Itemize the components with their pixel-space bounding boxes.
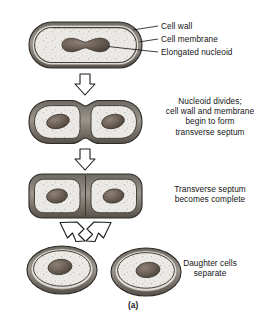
stage-3-description: Transverse septum becomes complete	[148, 184, 272, 204]
stage-3-cell	[29, 174, 142, 218]
stage-4-line-2: separate	[148, 268, 272, 278]
down-right-arrow-icon	[86, 222, 111, 242]
figure-caption: (a)	[128, 300, 138, 310]
leader-line-cell-wall	[133, 26, 158, 30]
arrow-2-down	[75, 149, 95, 170]
stage-3-line-1: Transverse septum	[148, 184, 272, 194]
stage-3-line-2: becomes complete	[148, 194, 272, 204]
stage-2-line-1: Nucleoid divides;	[148, 96, 272, 106]
callout-label-elongated-nucleoid: Elongated nucleoid	[161, 47, 232, 57]
stage-2-line-2: cell wall and membrane	[148, 106, 272, 116]
callout-label-cell-wall: Cell wall	[161, 21, 192, 31]
binary-fission-figure: Cell wall Cell membrane Elongated nucleo…	[0, 0, 274, 316]
stage-4-line-1: Daughter cells	[148, 258, 272, 268]
stage-2-line-3: begin to form	[148, 116, 272, 126]
down-arrow-icon	[75, 149, 95, 170]
stage-2-description: Nucleoid divides; cell wall and membrane…	[148, 96, 272, 137]
daughter-cell-left	[27, 246, 97, 294]
stage-4-description: Daughter cells separate	[148, 258, 272, 278]
stage-2-cell	[29, 101, 142, 144]
diverging-arrows	[60, 222, 111, 242]
stage-2-line-4: transverse septum	[148, 127, 272, 137]
down-arrow-icon	[75, 74, 95, 95]
arrow-1-down	[75, 74, 95, 95]
callout-label-cell-membrane: Cell membrane	[161, 34, 218, 44]
down-left-arrow-icon	[60, 222, 85, 242]
stage-1-cell	[29, 22, 142, 68]
